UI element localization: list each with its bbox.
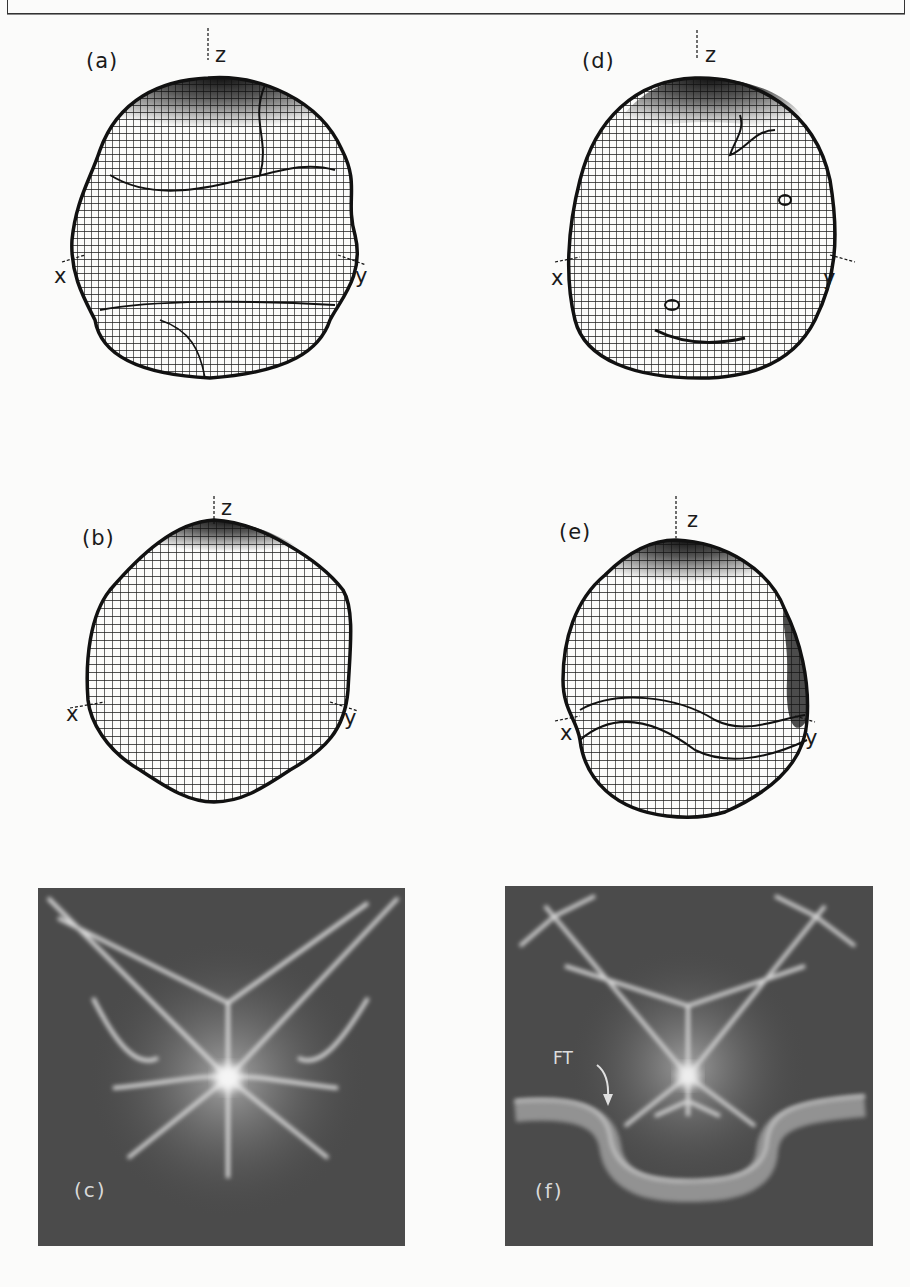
panel-e-y-axis-label: y <box>805 728 817 749</box>
panel-e-x-axis-label: x <box>560 723 572 744</box>
panel-a-z-axis-label: z <box>215 45 226 66</box>
panel-b-z-axis-label: z <box>221 498 232 519</box>
panel-e-wireframe-surface <box>455 440 910 860</box>
panel-c-photograph: (c) <box>38 888 405 1246</box>
panel-d: (d) z x y <box>455 0 910 440</box>
panel-c-label: (c) <box>74 1178 107 1202</box>
panel-b-x-axis-label: x <box>66 704 78 725</box>
panel-a-y-axis-label: y <box>355 266 367 287</box>
panel-f-label: (f) <box>535 1179 564 1203</box>
panel-b: (b) z x y <box>0 440 455 860</box>
panel-e-z-axis-label: z <box>687 510 698 531</box>
panel-d-y-axis-label: y <box>823 268 835 289</box>
panel-d-z-axis-label: z <box>705 45 716 66</box>
panel-b-y-axis-label: y <box>344 708 356 729</box>
panel-f-ft-annotation: FT <box>553 1048 573 1068</box>
panel-a: (a) z x y <box>0 0 455 440</box>
panel-e: (e) z x y <box>455 440 910 860</box>
panel-a-x-axis-label: x <box>54 266 66 287</box>
panel-d-wireframe-surface <box>455 0 910 440</box>
panel-d-x-axis-label: x <box>551 268 563 289</box>
panel-a-wireframe-surface <box>0 0 455 440</box>
panel-f-photograph: FT (f) <box>505 886 873 1246</box>
